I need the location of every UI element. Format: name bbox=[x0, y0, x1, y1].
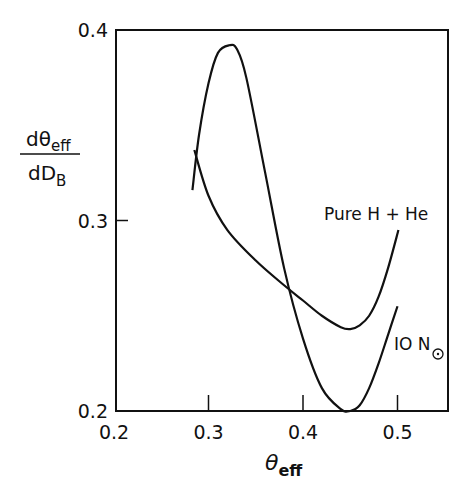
annotation-pure-h-he: Pure H + He bbox=[324, 204, 428, 224]
x-tick-label: 0.3 bbox=[193, 421, 223, 443]
series-line bbox=[194, 150, 398, 329]
y-tick-label: 0.3 bbox=[78, 210, 108, 232]
chart: 0.20.30.40.5 0.20.30.4 dθeff dDB θeff Pu… bbox=[0, 0, 469, 487]
x-tick-label: 0.2 bbox=[99, 421, 129, 443]
y-tick-label: 0.4 bbox=[78, 19, 108, 41]
annotation-10-nsun: IO N bbox=[394, 334, 443, 359]
series-line bbox=[192, 45, 397, 412]
x-tick-label: 0.5 bbox=[382, 421, 412, 443]
svg-text:dθeff: dθeff bbox=[26, 127, 71, 155]
x-axis: 0.20.30.40.5 bbox=[99, 395, 413, 443]
x-tick-label: 0.4 bbox=[288, 421, 318, 443]
y-tick-label: 0.2 bbox=[78, 400, 108, 422]
x-axis-label: θeff bbox=[265, 450, 303, 480]
svg-text:IO N: IO N bbox=[394, 334, 431, 354]
series-group bbox=[192, 45, 398, 412]
svg-text:dDB: dDB bbox=[28, 161, 66, 190]
y-axis: 0.20.30.4 bbox=[78, 19, 128, 422]
y-axis-label: dθeff dDB bbox=[20, 127, 80, 190]
